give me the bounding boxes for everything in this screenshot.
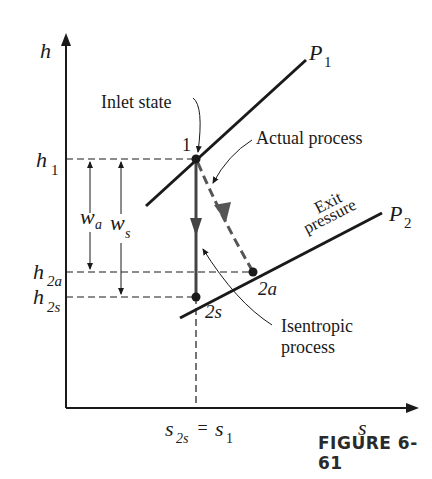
actual-process-label: Actual process [256, 128, 362, 148]
hs-diagram: h s h 1 h 2a h 2s w a w s P 1 P 2 [0, 0, 432, 479]
state-1-label: 1 [182, 135, 191, 155]
y-axis-arrow-icon [61, 33, 71, 46]
svg-text:1: 1 [324, 54, 332, 70]
svg-text:h: h [36, 147, 47, 172]
isentropic-process-label: Isentropic [281, 316, 353, 336]
svg-text:2s: 2s [176, 431, 189, 446]
svg-text:P: P [308, 40, 322, 65]
svg-text:h: h [33, 284, 44, 309]
isentropic-arrow-icon [190, 218, 202, 236]
svg-text:1: 1 [51, 162, 59, 178]
svg-text:s: s [215, 416, 224, 441]
state-2a-label: 2a [258, 278, 277, 299]
svg-text:=: = [193, 418, 212, 438]
inlet-state-label: Inlet state [101, 92, 171, 112]
state-1-point [192, 155, 201, 164]
ws-dimension: w s [110, 162, 131, 294]
state-2a-point [249, 268, 258, 277]
svg-text:a: a [95, 217, 102, 232]
y-axis-label: h [40, 38, 51, 63]
svg-text:2s: 2s [47, 299, 61, 315]
svg-text:2: 2 [404, 215, 412, 231]
x-axis-arrow-icon [406, 403, 419, 413]
wa-label: w [80, 204, 95, 229]
h1-label: h 1 [36, 147, 59, 178]
svg-text:1: 1 [226, 431, 233, 446]
figure-caption: FIGURE 6-61 [318, 433, 432, 473]
svg-text:2a: 2a [47, 273, 62, 289]
ws-label: w [110, 210, 125, 235]
x-axis [66, 403, 419, 413]
actual-process-pointer-icon [213, 140, 252, 183]
p2-label: P 2 [388, 201, 412, 231]
inlet-state-pointer-icon [193, 98, 200, 152]
p1-label: P 1 [308, 40, 332, 70]
svg-text:s: s [165, 416, 174, 441]
svg-text:P: P [388, 201, 402, 226]
svg-text:s: s [125, 226, 131, 241]
svg-text:process: process [281, 337, 335, 357]
s2s-equals-s1-label: s 2s = s 1 [165, 416, 233, 446]
svg-text:h: h [33, 259, 44, 284]
state-2s-label: 2s [205, 301, 222, 322]
wa-dimension: w a [80, 162, 102, 269]
state-2s-point [192, 293, 201, 302]
y-axis [61, 33, 71, 408]
